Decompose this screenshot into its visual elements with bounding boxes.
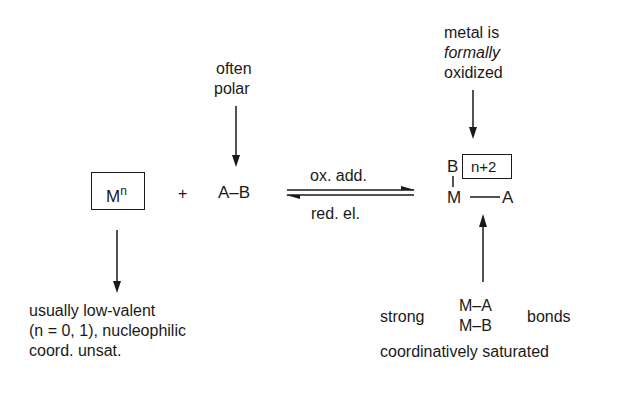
metal-oxidation-superscript: n xyxy=(120,184,127,198)
bonds-label: bonds xyxy=(527,307,571,326)
forward-label: ox. add. xyxy=(310,166,367,185)
product-atom-b: B xyxy=(447,157,458,176)
saturated-up-arrow xyxy=(479,214,487,282)
substrate-note-line1: often xyxy=(216,59,252,78)
metal-down-arrow xyxy=(113,230,121,293)
polar-down-arrow xyxy=(232,106,240,167)
product-atom-m: M xyxy=(447,188,461,207)
substrate-note-line2: polar xyxy=(214,79,250,98)
product-note-top-line3: oxidized xyxy=(444,63,503,82)
substrate-ab: A–B xyxy=(218,183,250,202)
equilibrium-arrows xyxy=(286,186,415,199)
oxidation-state-label: n+2 xyxy=(471,157,496,176)
metal-note-line1: usually low-valent xyxy=(29,301,155,320)
strong-label: strong xyxy=(380,307,424,326)
metal-note-line3: coord. unsat. xyxy=(29,341,122,360)
bond-mb: M–B xyxy=(459,316,492,335)
product-note-top-line2: formally xyxy=(444,43,500,62)
oxidized-down-arrow xyxy=(469,90,477,139)
metal-note-line2: (n = 0, 1), nucleophilic xyxy=(29,321,186,340)
product-atom-a: A xyxy=(502,188,513,207)
plus-sign: + xyxy=(178,184,187,203)
saturated-label: coordinatively saturated xyxy=(380,342,549,361)
bond-ma: M–A xyxy=(459,296,492,315)
metal-letter: M xyxy=(106,187,120,206)
reverse-label: red. el. xyxy=(311,204,360,223)
product-note-top-line1: metal is xyxy=(444,23,499,42)
metal-symbol: Mn xyxy=(106,182,127,206)
